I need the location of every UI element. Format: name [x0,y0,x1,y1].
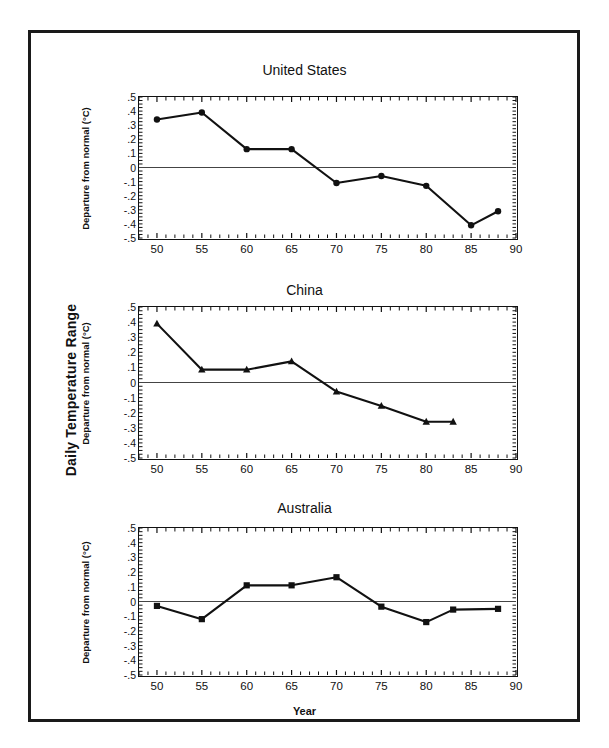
y-tick-label: .4 [127,105,136,117]
data-point-marker [495,606,501,612]
y-tick-label: -.1 [124,392,136,404]
plot-area: .5.4.3.2.10-.1-.2-.3-.4-.550556065707580… [138,96,518,240]
data-point-marker [468,222,474,228]
y-tick-label: .5 [127,522,136,534]
x-tick-label: 85 [465,680,478,692]
y-tick-label: -.4 [124,654,136,666]
y-tick-label: 0 [130,596,136,608]
x-tick-label: 65 [285,680,298,692]
x-tick-label: 70 [330,243,343,255]
series-line [157,324,453,422]
y-tick-label: -.2 [124,190,136,202]
x-tick-label: 75 [375,680,388,692]
data-point-marker [333,574,339,580]
data-point-marker [154,116,160,122]
y-tick-label: .1 [127,147,136,159]
y-axis-label-text: Departure from normal (°C) [80,541,91,664]
y-tick-label: .4 [127,316,136,328]
y-tick-label: .1 [127,581,136,593]
data-point-marker [450,606,456,612]
data-point-marker [244,146,250,152]
x-tick-label: 90 [510,463,523,475]
plot-area: .5.4.3.2.10-.1-.2-.3-.4-.550556065707580… [138,306,518,460]
x-tick-label: 50 [151,463,164,475]
x-tick-label: 65 [285,243,298,255]
y-tick-label: -.1 [124,176,136,188]
chart-title: United States [0,62,609,78]
x-axis-label: Year [0,705,609,717]
x-tick-label: 55 [195,680,208,692]
y-tick-label: -.4 [124,218,136,230]
chart-title: China [0,282,609,298]
series-line [157,577,498,622]
y-tick-label: .3 [127,331,136,343]
data-point-marker [199,109,205,115]
x-tick-label: 85 [465,463,478,475]
y-axis-label-text: Departure from normal (°C) [80,322,91,445]
y-tick-label: -.1 [124,610,136,622]
y-tick-label: .2 [127,566,136,578]
y-tick-label: -.5 [124,452,136,464]
y-tick-label: .1 [127,361,136,373]
x-tick-label: 70 [330,680,343,692]
y-tick-label: .4 [127,537,136,549]
y-tick-label: .5 [127,301,136,313]
data-point-marker [495,208,501,214]
y-axis-label: Departure from normal (°C) [72,96,98,240]
x-tick-label: 75 [375,463,388,475]
y-tick-label: 0 [130,162,136,174]
y-axis-label: Departure from normal (°C) [72,527,98,677]
plot-area: .5.4.3.2.10-.1-.2-.3-.4-.550556065707580… [138,527,518,677]
y-tick-label: -.5 [124,232,136,244]
y-tick-label: .3 [127,551,136,563]
x-tick-label: 60 [240,243,253,255]
data-point-marker [244,582,250,588]
y-tick-label: -.3 [124,640,136,652]
x-tick-label: 70 [330,463,343,475]
y-tick-label: -.2 [124,407,136,419]
series-canvas [139,97,518,240]
series-canvas [139,307,518,460]
x-tick-label: 60 [240,463,253,475]
chart-title: Australia [0,500,609,516]
x-tick-label: 80 [420,463,433,475]
y-axis-label-text: Departure from normal (°C) [80,107,91,230]
y-tick-label: 0 [130,377,136,389]
y-tick-label: .2 [127,133,136,145]
data-point-marker [423,183,429,189]
y-tick-label: .5 [127,91,136,103]
x-tick-label: 85 [465,243,478,255]
x-tick-label: 55 [195,243,208,255]
x-tick-label: 90 [510,680,523,692]
y-tick-label: -.5 [124,669,136,681]
data-point-marker [288,146,294,152]
y-axis-label: Departure from normal (°C) [72,306,98,460]
data-point-marker [153,320,160,327]
y-tick-label: -.3 [124,422,136,434]
series-line [157,113,498,226]
data-point-marker [333,180,339,186]
series-canvas [139,528,518,677]
y-tick-label: -.4 [124,437,136,449]
x-tick-label: 55 [195,463,208,475]
y-tick-label: -.3 [124,204,136,216]
data-point-marker [378,173,384,179]
x-tick-label: 65 [285,463,298,475]
x-tick-label: 50 [151,243,164,255]
data-point-marker [378,604,384,610]
data-point-marker [288,582,294,588]
y-tick-label: .3 [127,119,136,131]
y-tick-label: .2 [127,346,136,358]
x-tick-label: 60 [240,680,253,692]
data-point-marker [199,616,205,622]
data-point-marker [423,619,429,625]
x-tick-label: 90 [510,243,523,255]
y-tick-label: -.2 [124,625,136,637]
x-tick-label: 80 [420,243,433,255]
x-tick-label: 50 [151,680,164,692]
x-tick-label: 75 [375,243,388,255]
x-tick-label: 80 [420,680,433,692]
data-point-marker [154,603,160,609]
